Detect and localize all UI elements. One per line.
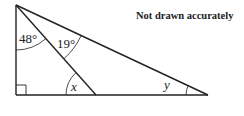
arc-y [186,86,188,95]
label-19: 19° [57,36,75,51]
label-x: x [70,79,77,94]
inner-line [16,5,96,95]
label-48: 48° [19,31,37,46]
triangle-diagram: 48° 19° x y Not drawn accurately [0,0,244,116]
label-y: y [162,77,170,92]
right-angle-marker [16,85,26,95]
not-drawn-accurately-note: Not drawn accurately [136,10,233,21]
